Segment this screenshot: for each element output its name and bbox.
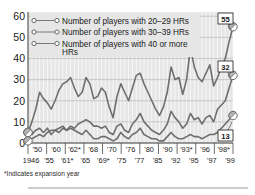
x-axis-label-bottom: '95 — [189, 156, 199, 165]
series-start-marker-2 — [24, 128, 32, 136]
legend-marker-left-20-29 — [32, 18, 36, 22]
y-axis-tick-label: 40 — [13, 52, 25, 64]
x-axis-label-bottom: '97 — [207, 156, 217, 165]
legend-label-30-39: Number of players with 30–39 HRs — [62, 28, 189, 37]
x-axis-label-bottom: '77 — [135, 156, 145, 165]
legend-marker-left-30-39 — [32, 30, 36, 34]
x-axis-label-top: '62* — [68, 145, 81, 154]
callout-value-32: 32 — [221, 63, 229, 72]
legend-label-40-plus: Number of players with 40 or more — [62, 40, 188, 49]
x-axis-label-bottom: '75 — [117, 156, 127, 165]
y-axis-tick-label: 30 — [13, 73, 25, 85]
x-axis-label-top: '70 — [107, 145, 117, 154]
x-axis-label-bottom: 1946 — [23, 156, 39, 165]
x-axis-label-bottom: '85 — [153, 156, 163, 165]
series-start-marker-3 — [24, 137, 32, 145]
x-axis-label-top: '76 — [126, 145, 136, 154]
x-axis-label-top: '93* — [180, 145, 193, 154]
footnote-text: *Indicates expansion year — [4, 170, 80, 178]
legend-marker-left-40-plus — [32, 41, 36, 45]
x-axis-label-top: '50 — [32, 145, 42, 154]
legend-label-40-plus-cont: HRs — [62, 48, 78, 57]
x-axis-label-top: '80 — [144, 145, 154, 154]
callout-value-13: 13 — [221, 132, 229, 141]
legend-label-20-29: Number of players with 20–29 HRs — [62, 17, 189, 26]
legend-marker-right-40-plus — [55, 41, 59, 45]
x-axis-label-bottom: '65 — [80, 156, 90, 165]
x-axis-label-top: '60 — [51, 145, 61, 154]
x-axis-label-bottom: '61* — [61, 156, 74, 165]
x-axis-label-bottom: '99 — [225, 156, 235, 165]
y-axis-tick-label: 60 — [13, 10, 25, 22]
x-axis-label-top: '68 — [88, 145, 98, 154]
x-axis-label-top: '90 — [163, 145, 173, 154]
home-run-players-line-chart: 0102030405060 Number of players with 20–… — [0, 0, 255, 195]
series-end-marker-3 — [229, 111, 237, 119]
x-axis-label-bottom: '55 — [44, 156, 54, 165]
x-axis-label-top: '96 — [200, 145, 210, 154]
x-axis-label-bottom: '92 — [171, 156, 181, 165]
legend-marker-right-30-39 — [55, 30, 59, 34]
callout-value-55: 55 — [221, 15, 230, 24]
legend-marker-right-20-29 — [55, 18, 59, 22]
y-axis-tick-label: 50 — [13, 31, 25, 43]
chart-legend: Number of players with 20–29 HRs Number … — [30, 13, 200, 57]
x-axis-label-bottom: '69* — [97, 156, 110, 165]
y-axis-tick-label: 20 — [13, 95, 25, 107]
y-axis-tick-label: 10 — [13, 116, 25, 128]
x-axis-label-top: '98* — [217, 145, 230, 154]
